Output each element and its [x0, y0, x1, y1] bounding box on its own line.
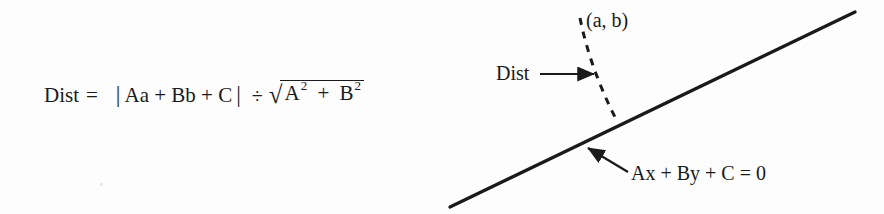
point-coordinate-label: (a, b) [586, 10, 628, 30]
distance-label: Dist [496, 63, 529, 83]
distance-point-to-line-figure: Dist = | Aa + Bb + C | ÷ √ A2 + B2 [0, 0, 884, 214]
perpendicular-distance-segment [580, 18, 617, 121]
line-equation-label: Ax + By + C = 0 [631, 163, 766, 183]
line-equation-pointer-arrow [588, 148, 628, 172]
scan-artifact-speck [100, 183, 103, 186]
